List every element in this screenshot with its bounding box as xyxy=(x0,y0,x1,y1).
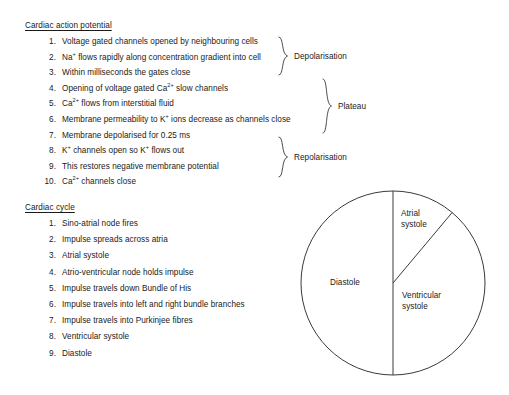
list-item-number: 9. xyxy=(34,159,56,175)
list-item-number: 7. xyxy=(34,128,56,144)
pie-slice-label-ventricular-line2: systole xyxy=(402,302,441,313)
list-item-number: 8. xyxy=(34,329,56,345)
list-item-number: 5. xyxy=(34,96,56,112)
list-item-text: Voltage gated channels opened by neighbo… xyxy=(62,34,258,50)
phase-group-plateau: Plateau xyxy=(322,78,366,134)
curly-brace-icon xyxy=(278,36,290,76)
list-item-text: Impulse travels down Bundle of His xyxy=(62,281,191,297)
list-item-text: Ca2+ flows from interstitial fluid xyxy=(62,96,174,112)
list-item-text: This restores negative membrane potentia… xyxy=(62,159,219,175)
list-item-number: 3. xyxy=(34,248,56,264)
list-item-number: 2. xyxy=(34,50,56,66)
pie-slice-label-atrial-line2: systole xyxy=(401,220,427,231)
list-item-number: 6. xyxy=(34,112,56,128)
list-item-number: 5. xyxy=(34,281,56,297)
phase-label-repolarisation: Repolarisation xyxy=(294,153,347,162)
list-item-text: Within milliseconds the gates close xyxy=(62,65,190,81)
list-item-text: Membrane permeability to K+ ions decreas… xyxy=(62,112,291,128)
pie-slice-label-ventricular-systole: Ventricular systole xyxy=(402,291,441,312)
list-item-number: 1. xyxy=(34,34,56,50)
phase-group-depolarisation: Depolarisation xyxy=(278,36,347,76)
cardiac-cycle-pie-chart xyxy=(295,185,495,385)
pie-slice-label-atrial-systole: Atrial systole xyxy=(401,209,427,230)
list-item-number: 3. xyxy=(34,65,56,81)
list-item-number: 2. xyxy=(34,232,56,248)
list-item-text: Sino-atrial node fires xyxy=(62,216,138,232)
list-item-text: Diastole xyxy=(62,346,92,362)
list-item-text: K+ channels open so K+ flows out xyxy=(62,143,184,159)
pie-slice-label-ventricular-line1: Ventricular xyxy=(402,291,441,302)
curly-brace-icon xyxy=(278,136,290,178)
list-item-text: Atrio-ventricular node holds impulse xyxy=(62,265,194,281)
phase-label-plateau: Plateau xyxy=(338,102,366,111)
list-item-text: Na+ flows rapidly along concentration gr… xyxy=(62,50,261,66)
list-item-number: 7. xyxy=(34,313,56,329)
phase-label-depolarisation: Depolarisation xyxy=(294,52,347,61)
list-item-number: 6. xyxy=(34,297,56,313)
section-heading-cardiac-action-potential: Cardiac action potential xyxy=(25,21,112,31)
list-item-number: 4. xyxy=(34,81,56,97)
pie-slice-label-diastole: Diastole xyxy=(330,278,360,289)
document-page: Cardiac action potential 1. Voltage gate… xyxy=(0,0,509,395)
list-item-text: Impulse travels into left and right bund… xyxy=(62,297,245,313)
phase-group-repolarisation: Repolarisation xyxy=(278,136,347,178)
list-item-text: Membrane depolarised for 0.25 ms xyxy=(62,128,190,144)
curly-brace-icon xyxy=(322,78,334,134)
list-item-text: Impulse travels into Purkinjee fibres xyxy=(62,313,193,329)
list-item-text: Impulse spreads across atria xyxy=(62,232,168,248)
list-item-number: 10. xyxy=(34,174,56,190)
list-item-text: Atrial systole xyxy=(62,248,109,264)
list-item-number: 4. xyxy=(34,265,56,281)
section-heading-cardiac-cycle: Cardiac cycle xyxy=(25,203,75,213)
list-item-text: Ventricular systole xyxy=(62,329,129,345)
pie-chart-svg xyxy=(295,185,495,385)
list-item-text: Opening of voltage gated Ca2+ slow chann… xyxy=(62,81,228,97)
pie-slice-label-atrial-line1: Atrial xyxy=(401,209,427,220)
list-item-text: Ca2+ channels close xyxy=(62,174,136,190)
list-item-number: 1. xyxy=(34,216,56,232)
list-item-number: 8. xyxy=(34,143,56,159)
list-item-number: 9. xyxy=(34,346,56,362)
